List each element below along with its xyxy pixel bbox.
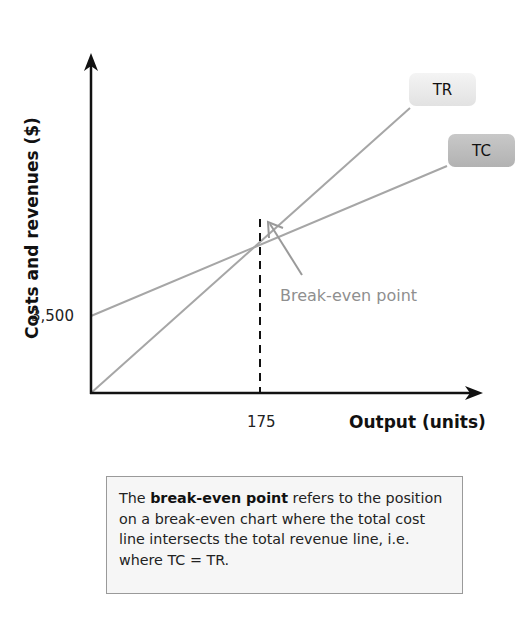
break-even-annotation: Break-even point [280, 286, 417, 305]
tc-label: TC [448, 134, 515, 167]
tc-label-text: TC [472, 142, 491, 160]
tr-line [91, 108, 410, 393]
y-tick-label: 3,500 [31, 307, 74, 325]
definition-box: The break-even point refers to the posit… [106, 476, 463, 594]
x-axis-label: Output (units) [349, 412, 486, 432]
tr-label: TR [409, 73, 476, 106]
tr-label-text: TR [433, 81, 453, 99]
y-axis-label: Costs and revenues ($) [22, 117, 42, 339]
definition-prefix: The [119, 490, 150, 506]
break-even-chart [0, 0, 531, 460]
x-tick-label: 175 [247, 413, 276, 431]
definition-term: break-even point [150, 490, 288, 506]
